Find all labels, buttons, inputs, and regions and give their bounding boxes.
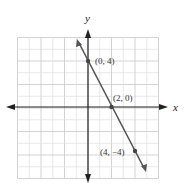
coordinate-plane: x y (0, 4) (2, 0) (4, −4) [0,0,189,192]
y-axis [85,29,91,183]
point-label: (4, −4) [100,147,125,157]
x-axis [6,104,168,110]
y-axis-label: y [84,12,90,24]
point-4-neg4 [133,149,137,153]
point-0-4 [86,59,90,63]
arrow-right-icon [159,104,168,110]
x-axis-label: x [172,101,178,113]
point-2-0 [109,105,113,109]
arrow-left-icon [6,104,15,110]
arrow-up-icon [85,29,91,38]
point-label: (0, 4) [95,56,115,66]
point-label: (2, 0) [113,93,133,103]
